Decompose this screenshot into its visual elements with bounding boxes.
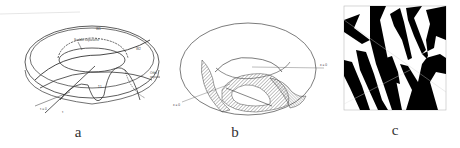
caption-a: a: [68, 124, 88, 141]
left-marker-label: x = 0: [173, 103, 180, 107]
tau-label: τ: [62, 110, 64, 114]
caption-c: c: [385, 122, 405, 139]
torus-diagram: Saddle separatrix W1 W2 Orbit separatrix…: [0, 0, 160, 120]
tau-origin-label: τ = 0: [40, 107, 47, 111]
w1-label: W1: [96, 27, 101, 31]
stripe-pattern-image: [330, 0, 460, 120]
w2-label: W2: [136, 47, 141, 51]
hatched-region-diagram: x = 0 x = 0: [160, 0, 330, 120]
svg-text:separatrix: separatrix: [150, 75, 160, 79]
saddle-separatrix-label: Saddle separatrix: [74, 38, 99, 42]
panel-a: Saddle separatrix W1 W2 Orbit separatrix…: [0, 0, 160, 148]
panel-b: x = 0 x = 0 b: [160, 0, 330, 148]
panel-c: c: [330, 0, 460, 148]
right-marker-label: x = 0: [320, 63, 327, 67]
caption-b: b: [225, 124, 245, 141]
sigma-label: Σ1: [98, 85, 102, 89]
